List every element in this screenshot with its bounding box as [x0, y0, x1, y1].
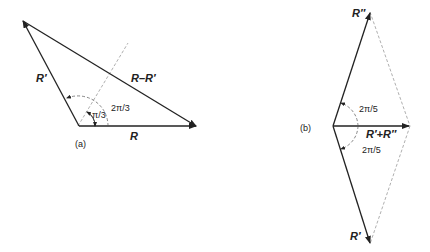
caption-a: (a)	[75, 139, 86, 149]
vector-R-prime-b	[333, 126, 370, 243]
angle-arc-upper	[341, 103, 358, 126]
angle-arc-lower	[341, 126, 358, 149]
label-R-prime-plus-R-double-prime: R′+R″	[366, 128, 397, 140]
figure-b: R″ 2π/5 (b) R′+R″ 2π/5 R′	[300, 7, 410, 244]
label-R-minus-R-prime: R–R′	[131, 72, 157, 84]
vector-R-minus-R-prime	[23, 21, 196, 126]
label-angle-upper: 2π/5	[359, 104, 378, 114]
dashed-side-lower	[370, 126, 410, 244]
vector-R-prime	[23, 21, 79, 126]
diagram-canvas: R′ R–R′ 2π/3 π/3 R (a) R″ 2π/5 (b) R′+R″…	[0, 0, 430, 252]
label-R-prime-b: R′	[350, 230, 362, 242]
label-angle-pi-3: π/3	[92, 110, 106, 120]
label-angle-2pi-3: 2π/3	[111, 103, 130, 113]
caption-b: (b)	[300, 123, 311, 133]
label-R-prime: R′	[36, 72, 48, 84]
label-R: R	[130, 130, 138, 142]
label-R-double-prime: R″	[352, 7, 366, 19]
figure-a: R′ R–R′ 2π/3 π/3 R (a)	[23, 21, 196, 149]
label-angle-lower: 2π/5	[362, 145, 381, 155]
